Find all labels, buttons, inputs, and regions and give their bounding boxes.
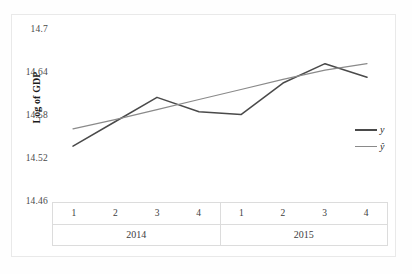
year-label: 2015 [220,225,388,246]
quarter-label: 4 [345,203,387,224]
quarter-group: 1234 [53,203,220,224]
quarter-label: 4 [178,203,220,224]
quarter-label: 2 [95,203,137,224]
quarter-label: 2 [262,203,304,224]
y-axis-tick-label: 14.64 [4,67,48,77]
legend-label: ŷ [380,142,384,152]
y-axis-tick-label: 14.7 [4,24,48,34]
y-axis-tick-label: 14.52 [4,153,48,163]
year-label-row: 20142015 [53,225,387,246]
y-axis-tick-labels: 14.714.6414.5814.5214.46 [0,30,48,202]
series-line-yhat [73,64,367,129]
quarter-label: 3 [304,203,346,224]
x-axis-category-table: 12341234 20142015 [52,202,388,246]
quarter-label-row: 12341234 [53,203,387,225]
legend-label: y [380,125,384,135]
quarter-label: 1 [221,203,263,224]
quarter-label: 1 [53,203,95,224]
series-line-y [73,64,367,146]
y-axis-tick-label: 14.58 [4,110,48,120]
legend-swatch-icon [355,129,377,131]
chart-legend: yŷ [355,121,403,155]
y-axis-tick-label: 14.46 [4,196,48,206]
legend-swatch-icon [355,146,377,147]
year-label: 2014 [53,225,220,246]
plot-area [52,30,388,202]
series-lines [52,30,388,202]
chart-figure: Log of GDP 14.714.6414.5814.5214.46 1234… [0,0,412,274]
legend-item: ŷ [355,138,403,155]
quarter-group: 1234 [220,203,388,224]
quarter-label: 3 [136,203,178,224]
legend-item: y [355,121,403,138]
